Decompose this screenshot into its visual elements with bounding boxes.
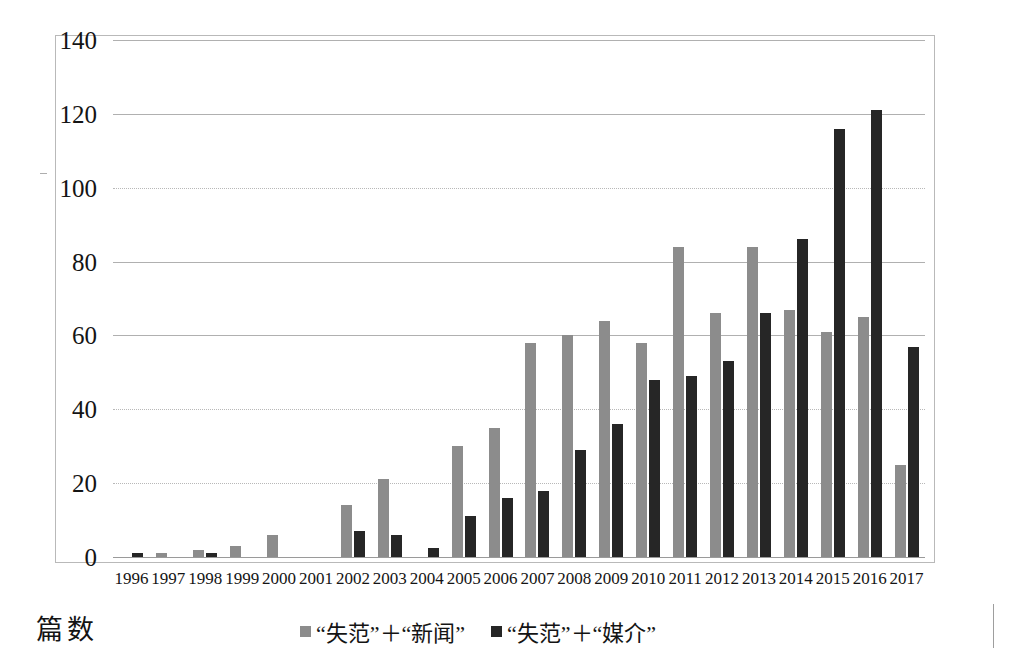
y-tick-label-40: 40 — [72, 397, 97, 422]
bar-group — [667, 40, 704, 557]
bar-1998-series1 — [193, 550, 204, 557]
bar-2013-series2 — [760, 313, 771, 557]
x-tick-label-2009: 2009 — [594, 566, 628, 592]
x-tick-label-2012: 2012 — [705, 566, 739, 592]
x-tick-label-1998: 1998 — [188, 566, 222, 592]
axis-baseline — [113, 557, 925, 558]
bar-group — [593, 40, 630, 557]
bar-2005-series1 — [452, 446, 463, 557]
bar-group — [187, 40, 224, 557]
bar-2016-series2 — [871, 110, 882, 557]
x-tick-label-2015: 2015 — [816, 566, 850, 592]
legend-label-1: “失范”＋“新闻” — [316, 615, 465, 647]
bar-2008-series1 — [562, 335, 573, 557]
bar-2011-series1 — [673, 247, 684, 557]
legend-item-1[interactable]: “失范”＋“新闻” — [300, 615, 465, 647]
bar-group — [334, 40, 371, 557]
x-tick-label-1997: 1997 — [151, 566, 185, 592]
bar-group — [445, 40, 482, 557]
y-tick-label-0: 0 — [85, 545, 98, 570]
bar-2009-series1 — [599, 321, 610, 557]
x-tick-label-2014: 2014 — [779, 566, 813, 592]
bar-group — [150, 40, 187, 557]
x-tick-label-2007: 2007 — [520, 566, 554, 592]
x-tick-label-2001: 2001 — [299, 566, 333, 592]
bar-1997-series1 — [156, 553, 167, 557]
y-tick-label-100: 100 — [60, 175, 98, 200]
x-tick-label-2006: 2006 — [484, 566, 518, 592]
chart-legend: “失范”＋“新闻”“失范”＋“媒介” — [300, 615, 656, 647]
bar-2012-series2 — [723, 361, 734, 557]
bar-2000-series1 — [267, 535, 278, 557]
x-tick-label-1999: 1999 — [225, 566, 259, 592]
chart-page: 020406080100120140 199619971998199920002… — [0, 0, 1016, 655]
bar-2008-series2 — [575, 450, 586, 557]
bar-2016-series1 — [858, 317, 869, 557]
bar-2003-series2 — [391, 535, 402, 557]
bar-group — [740, 40, 777, 557]
bar-2014-series2 — [797, 239, 808, 557]
bar-group — [298, 40, 335, 557]
bar-1996-series2 — [132, 553, 143, 557]
bar-2014-series1 — [784, 310, 795, 557]
legend-label-2: “失范”＋“媒介” — [507, 615, 656, 647]
bar-group — [777, 40, 814, 557]
bar-2007-series2 — [538, 491, 549, 557]
bar-group — [851, 40, 888, 557]
bar-2005-series2 — [465, 516, 476, 557]
x-tick-label-2000: 2000 — [262, 566, 296, 592]
x-axis-labels: 1996199719981999200020012002200320042005… — [113, 566, 925, 592]
legend-item-2[interactable]: “失范”＋“媒介” — [491, 615, 656, 647]
bar-group — [888, 40, 925, 557]
y-tick-label-80: 80 — [72, 249, 97, 274]
bar-group — [371, 40, 408, 557]
bar-group — [113, 40, 150, 557]
bar-2012-series1 — [710, 313, 721, 557]
y-axis-labels: 020406080100120140 — [0, 40, 105, 557]
bar-2010-series2 — [649, 380, 660, 557]
x-tick-label-2017: 2017 — [890, 566, 924, 592]
x-tick-label-2013: 2013 — [742, 566, 776, 592]
bar-2015-series1 — [821, 332, 832, 557]
bar-2007-series1 — [525, 343, 536, 557]
x-tick-label-2002: 2002 — [336, 566, 370, 592]
bar-group — [482, 40, 519, 557]
bar-series-container — [113, 40, 925, 557]
bar-2003-series1 — [378, 479, 389, 557]
bar-2017-series2 — [908, 347, 919, 557]
bar-1998-series2 — [206, 553, 217, 557]
bar-2006-series2 — [502, 498, 513, 557]
bar-2002-series2 — [354, 531, 365, 557]
x-tick-label-2011: 2011 — [668, 566, 701, 592]
bar-2006-series1 — [489, 428, 500, 557]
bar-2017-series1 — [895, 465, 906, 557]
bar-group — [261, 40, 298, 557]
x-tick-label-1996: 1996 — [114, 566, 148, 592]
y-tick-label-60: 60 — [72, 323, 97, 348]
plot-area — [113, 40, 925, 557]
x-tick-label-2008: 2008 — [557, 566, 591, 592]
x-tick-label-2005: 2005 — [447, 566, 481, 592]
bar-2010-series1 — [636, 343, 647, 557]
bar-group — [556, 40, 593, 557]
bar-group — [519, 40, 556, 557]
legend-swatch-icon-1 — [300, 626, 311, 637]
right-margin-rule — [993, 604, 994, 648]
bar-group — [408, 40, 445, 557]
bar-group — [224, 40, 261, 557]
bar-2013-series1 — [747, 247, 758, 557]
bar-group — [704, 40, 741, 557]
x-tick-label-2016: 2016 — [853, 566, 887, 592]
bar-2015-series2 — [834, 129, 845, 557]
bar-2011-series2 — [686, 376, 697, 557]
y-tick-label-120: 120 — [60, 101, 98, 126]
y-tick-label-140: 140 — [60, 28, 98, 53]
bar-group — [814, 40, 851, 557]
bar-2004-series2 — [428, 548, 439, 557]
bar-2002-series1 — [341, 505, 352, 557]
y-axis-title: 篇数 — [36, 608, 98, 647]
bar-1999-series1 — [230, 546, 241, 557]
x-tick-label-2010: 2010 — [631, 566, 665, 592]
legend-swatch-icon-2 — [491, 626, 502, 637]
x-tick-label-2004: 2004 — [410, 566, 444, 592]
